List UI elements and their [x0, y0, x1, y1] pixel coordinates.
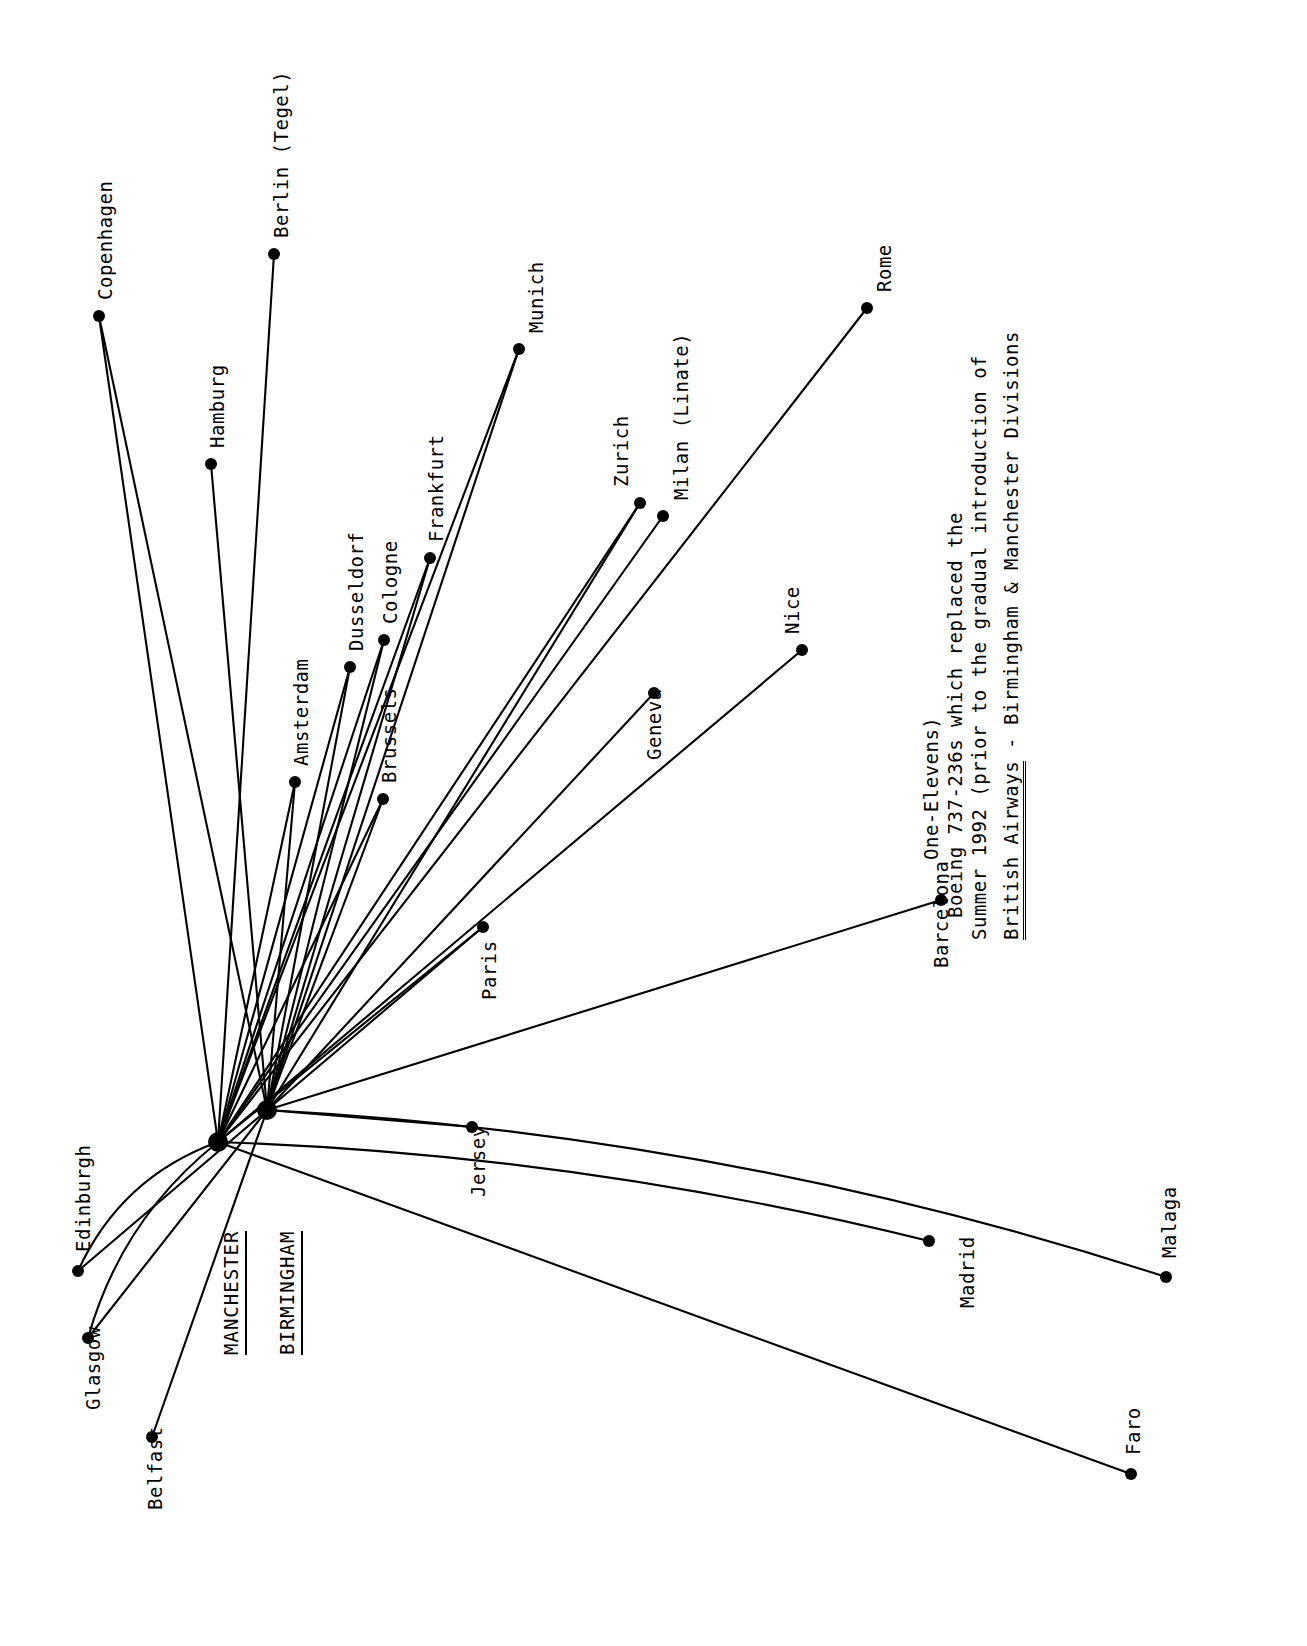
hub-node-bhx[interactable]	[257, 1100, 277, 1120]
caption-title-rest: - Birmingham & Manchester Divisions	[1000, 331, 1022, 761]
city-label-rome: Rome	[875, 244, 894, 292]
route-line	[218, 503, 640, 1142]
destination-node-paris[interactable]	[477, 921, 489, 933]
hub-label-text: BIRMINGHAM	[276, 1231, 303, 1355]
city-label-malaga: Malaga	[1160, 1186, 1179, 1258]
city-label-edinburgh: Edinburgh	[74, 1145, 93, 1252]
destination-node-hamburg[interactable]	[205, 458, 217, 470]
hub-label-text: MANCHESTER	[220, 1231, 247, 1355]
caption-title: British Airways - Birmingham & Mancheste…	[1000, 331, 1026, 940]
city-label-nice: Nice	[783, 586, 802, 634]
destination-node-frankfurt[interactable]	[424, 552, 436, 564]
destination-node-edinburgh[interactable]	[72, 1265, 84, 1277]
city-label-copenhagen: Copenhagen	[96, 181, 115, 300]
destination-node-copenhagen[interactable]	[93, 310, 105, 322]
route-line	[218, 799, 383, 1142]
destination-node-dusseldorf[interactable]	[344, 661, 356, 673]
caption-title-underlined: British Airways	[1000, 761, 1026, 940]
caption-line-4: One-Elevens)	[920, 717, 942, 860]
city-label-munich: Munich	[527, 261, 546, 333]
city-label-dusseldorf: Dusseldorf	[347, 532, 366, 651]
city-label-berlin: Berlin (Tegel)	[272, 71, 291, 238]
city-label-milan: Milan (Linate)	[672, 333, 691, 500]
city-label-jersey: Jersey	[469, 1125, 488, 1197]
route-line	[218, 1142, 929, 1241]
destination-node-rome[interactable]	[861, 302, 873, 314]
destination-node-cologne[interactable]	[378, 634, 390, 646]
route-line	[88, 1142, 218, 1338]
route-line	[267, 1110, 472, 1127]
city-label-belfast: Belfast	[146, 1426, 165, 1510]
city-label-frankfurt: Frankfurt	[427, 435, 446, 542]
hub-label-man: MANCHESTER	[222, 1231, 241, 1355]
destination-node-berlin[interactable]	[268, 248, 280, 260]
route-line	[211, 464, 267, 1110]
destination-node-faro[interactable]	[1125, 1468, 1137, 1480]
destination-node-zurich[interactable]	[634, 497, 646, 509]
city-label-hamburg: Hamburg	[208, 364, 227, 448]
route-line	[99, 316, 267, 1110]
city-label-amsterdam: Amsterdam	[292, 659, 311, 766]
route-line	[218, 308, 867, 1142]
hub-label-bhx: BIRMINGHAM	[278, 1231, 297, 1355]
destination-node-munich[interactable]	[513, 343, 525, 355]
route-line	[99, 316, 218, 1142]
city-label-brussels: Brussels	[380, 687, 399, 783]
city-label-zurich: Zurich	[612, 415, 631, 487]
caption-line-3: Boeing 737-236s which replaced the	[944, 512, 966, 918]
destination-node-nice[interactable]	[796, 644, 808, 656]
destination-node-amsterdam[interactable]	[289, 776, 301, 788]
route-network-svg	[0, 0, 1307, 1646]
route-line	[267, 1110, 1166, 1277]
city-label-madrid: Madrid	[958, 1236, 977, 1308]
city-label-glasgow: Glasgow	[84, 1326, 103, 1410]
destination-node-malaga[interactable]	[1160, 1271, 1172, 1283]
caption-line-2: Summer 1992 (prior to the gradual introd…	[968, 355, 990, 940]
destination-node-milan[interactable]	[657, 510, 669, 522]
city-label-cologne: Cologne	[381, 540, 400, 624]
city-label-faro: Faro	[1124, 1407, 1143, 1455]
route-line	[78, 1142, 218, 1271]
route-line	[218, 1142, 1131, 1474]
city-label-paris: Paris	[480, 940, 499, 1000]
city-label-geneva: Geneva	[645, 688, 664, 760]
destination-node-brussels[interactable]	[377, 793, 389, 805]
hub-node-man[interactable]	[208, 1132, 228, 1152]
destination-node-madrid[interactable]	[923, 1235, 935, 1247]
route-map-page: CopenhagenBerlin (Tegel)HamburgMunichAms…	[0, 0, 1307, 1646]
route-line	[218, 667, 350, 1142]
